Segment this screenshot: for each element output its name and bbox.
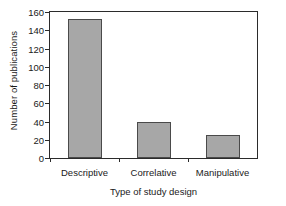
bar: [68, 19, 102, 158]
x-axis-tick-label: Descriptive: [61, 167, 108, 179]
y-axis-tick-label: 60: [16, 99, 44, 108]
x-axis-tick-labels: DescriptiveCorrelativeManipulative: [50, 167, 257, 180]
bar: [137, 122, 171, 158]
y-axis-tick-labels: 020406080100120140160: [16, 12, 44, 159]
x-axis-tick-marks: [50, 159, 257, 163]
y-axis-tick-label: 160: [16, 8, 44, 17]
y-axis-tick-label: 0: [16, 154, 44, 163]
x-axis-tick-label: Correlative: [131, 167, 177, 179]
y-axis-tick-label: 100: [16, 62, 44, 71]
y-axis-tick-label: 120: [16, 44, 44, 53]
x-axis-title: Type of study design: [49, 186, 258, 197]
bar: [206, 135, 240, 158]
x-axis-tick-mark: [188, 159, 189, 162]
bars-container: [50, 12, 257, 158]
y-axis-tick-label: 20: [16, 135, 44, 144]
y-axis-tick-label: 40: [16, 117, 44, 126]
x-axis-tick-mark: [119, 159, 120, 162]
x-axis-tick-label: Manipulative: [196, 167, 249, 179]
y-axis-tick-label: 140: [16, 26, 44, 35]
y-axis-tick-label: 80: [16, 81, 44, 90]
x-axis-tick-mark: [50, 159, 51, 162]
bar-chart-figure: Number of publications 02040608010012014…: [0, 0, 286, 206]
